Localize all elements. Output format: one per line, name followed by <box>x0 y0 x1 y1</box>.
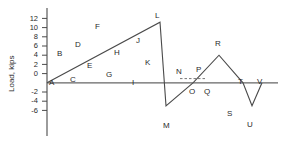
point-label-o: O <box>189 88 195 96</box>
load-diagram-chart: 12 10 8 6 4 2 0 -2 -4 -6 Load, kips A B … <box>0 0 283 141</box>
ytick-label-neg2: -2 <box>20 88 38 96</box>
ytick-label-10: 10 <box>22 24 38 32</box>
point-label-c: C <box>70 76 76 84</box>
point-label-t: T <box>238 78 243 86</box>
point-label-f: F <box>95 23 100 31</box>
point-label-k: K <box>145 59 150 67</box>
ytick-label-4: 4 <box>22 51 38 59</box>
ytick-label-0: 0 <box>22 70 38 78</box>
ytick-label-6: 6 <box>22 42 38 50</box>
point-label-a: A <box>49 79 54 87</box>
point-label-r: R <box>215 40 221 48</box>
point-label-u: U <box>247 121 253 129</box>
point-label-m: M <box>163 122 170 130</box>
ytick-label-neg4: -4 <box>20 97 38 105</box>
ytick-label-2: 2 <box>22 61 38 69</box>
point-label-n: N <box>176 68 182 76</box>
point-label-q: Q <box>204 88 210 96</box>
point-label-b: B <box>57 50 62 58</box>
point-label-e: E <box>87 62 92 70</box>
point-label-j: J <box>136 37 140 45</box>
ytick-label-neg6: -6 <box>20 107 38 115</box>
point-label-p: P <box>196 66 201 74</box>
point-label-s: S <box>227 110 232 118</box>
point-label-d: D <box>75 41 81 49</box>
chart-plot-area <box>0 0 283 141</box>
ytick-label-8: 8 <box>22 33 38 41</box>
point-label-l: L <box>155 12 159 20</box>
y-axis-ticks <box>42 18 47 110</box>
point-label-h: H <box>114 49 120 57</box>
ytick-label-12: 12 <box>22 15 38 23</box>
load-trace-polyline <box>47 22 262 106</box>
point-label-v: V <box>257 78 262 86</box>
y-axis-title: Load, kips <box>7 56 16 92</box>
point-label-i: I <box>132 79 134 87</box>
point-label-g: G <box>106 71 112 79</box>
